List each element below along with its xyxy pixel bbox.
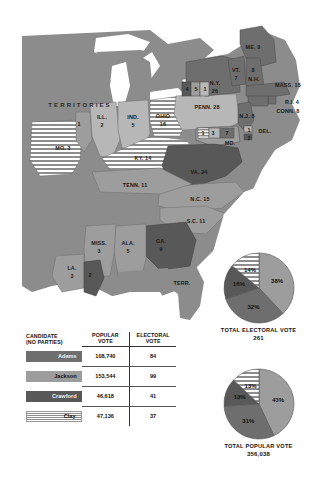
candidate-cell: Adams [26, 346, 82, 366]
candidate-cell: Crawford [26, 386, 82, 406]
popular-vote-cell: 108,740 [82, 346, 130, 366]
pie-svg [223, 368, 295, 440]
md-split-3 [209, 128, 220, 138]
state-pennsylvania [174, 94, 240, 130]
pie-label-jackson: 43% [272, 397, 284, 403]
electoral-vote-cell: 37 [130, 406, 176, 426]
header-popular-line2: VOTE [82, 338, 130, 344]
electoral-vote-cell: 41 [130, 386, 176, 406]
pie-label-jackson: 38% [271, 278, 283, 284]
ny-split-4 [182, 82, 191, 96]
pie-svg [223, 252, 295, 324]
pie-chart-electoral: 38%32%16%14%TOTAL ELECTORAL VOTE261 [196, 252, 321, 341]
candidate-swatch: Crawford [26, 391, 82, 402]
header-electoral-vote: ELECTORAL VOTE [130, 332, 176, 346]
popular-vote-cell: 47,136 [82, 406, 130, 426]
delaware-split-1 [244, 126, 252, 132]
state-rhode-island [268, 96, 276, 104]
header-popular-vote: POPULAR VOTE [82, 332, 130, 346]
table-body: Adams108,74084Jackson153,54499Crawford46… [26, 346, 176, 426]
header-candidate-line2: (NO PARTIES) [26, 339, 82, 345]
delaware-split-2 [244, 134, 252, 140]
pie-total: 356,038 [196, 451, 321, 457]
ny-split-1 [200, 82, 209, 96]
candidate-name: Clay [64, 413, 76, 419]
pie-total: 261 [196, 335, 321, 341]
header-electoral-line2: VOTE [130, 338, 176, 344]
pie-label-adams: 32% [248, 304, 260, 310]
md-split-1 [198, 128, 209, 138]
pie-chart-popular: 43%31%13%13%TOTAL POPULAR VOTE356,038 [196, 368, 321, 457]
pie-label-clay: 13% [245, 383, 257, 389]
candidate-cell: Jackson [26, 366, 82, 386]
pie-label-crawford: 13% [234, 394, 246, 400]
state-missouri [30, 120, 82, 176]
pie-label-adams: 31% [242, 418, 254, 424]
table-row: Crawford46,61841 [26, 386, 176, 406]
table-row: Jackson153,54499 [26, 366, 176, 386]
state-connecticut [248, 96, 268, 106]
candidate-name: Adams [58, 353, 77, 359]
map-label-territories: TERRITORIES [48, 102, 111, 108]
header-candidate: CANDIDATE (NO PARTIES) [26, 332, 82, 346]
state-louisiana-3 [52, 254, 84, 292]
pie-graphic: 38%32%16%14% [223, 252, 295, 324]
candidate-swatch: Adams [26, 351, 82, 362]
popular-vote-cell: 153,544 [82, 366, 130, 386]
candidate-swatch: Clay [26, 411, 82, 422]
state-alabama [114, 224, 146, 276]
electoral-vote-cell: 84 [130, 346, 176, 366]
state-louisiana-2 [84, 260, 104, 296]
candidate-name: Crawford [52, 393, 77, 399]
table-row: Clay47,13637 [26, 406, 176, 426]
ny-split-5 [191, 82, 200, 96]
pie-caption: TOTAL ELECTORAL VOTE [196, 327, 321, 335]
pie-graphic: 43%31%13%13% [223, 368, 295, 440]
candidate-name: Jackson [54, 373, 76, 379]
table-row: Adams108,74084 [26, 346, 176, 366]
pie-caption: TOTAL POPULAR VOTE [196, 443, 321, 451]
results-table: CANDIDATE (NO PARTIES) POPULAR VOTE ELEC… [26, 332, 176, 426]
table-header-row: CANDIDATE (NO PARTIES) POPULAR VOTE ELEC… [26, 332, 176, 346]
pie-label-clay: 14% [244, 267, 256, 273]
candidate-swatch: Jackson [26, 371, 82, 382]
popular-vote-cell: 46,618 [82, 386, 130, 406]
pie-label-crawford: 16% [233, 281, 245, 287]
electoral-vote-cell: 99 [130, 366, 176, 386]
md-split-7 [220, 128, 234, 138]
election-map-infographic: TERRITORIES ME. 9VT.78N.H.MASS. 15N.Y.26… [0, 0, 321, 485]
candidate-cell: Clay [26, 406, 82, 426]
